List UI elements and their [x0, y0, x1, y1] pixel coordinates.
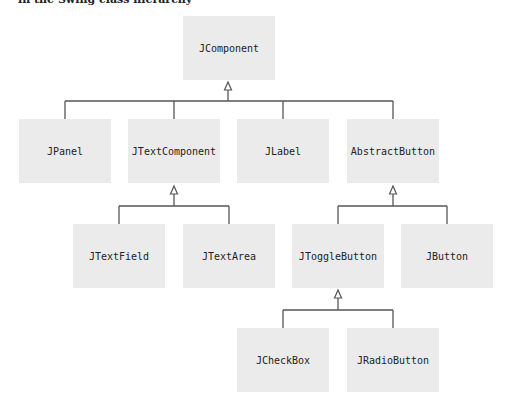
node-label: JLabel: [265, 146, 301, 157]
node-label: JPanel: [47, 146, 83, 157]
inheritance-arrow-icon: [171, 186, 178, 194]
node-label: JTextComponent: [132, 146, 216, 157]
node-abstractbutton: AbstractButton: [347, 119, 439, 183]
inheritance-arrow-icon: [335, 290, 342, 298]
inheritance-arrow-icon: [225, 82, 232, 90]
node-jtextfield: JTextField: [73, 224, 165, 288]
node-label: JTextArea: [202, 251, 256, 262]
node-label: JComponent: [199, 43, 259, 54]
node-jcomponent: JComponent: [183, 16, 275, 80]
node-jcheckbox: JCheckBox: [237, 328, 329, 392]
node-jbutton: JButton: [401, 224, 493, 288]
node-jtextcomponent: JTextComponent: [128, 119, 220, 183]
node-jpanel: JPanel: [19, 119, 111, 183]
node-label: AbstractButton: [351, 146, 435, 157]
node-jtogglebutton: JToggleButton: [292, 224, 384, 288]
inheritance-arrow-icon: [390, 186, 397, 194]
node-label: JCheckBox: [256, 355, 310, 366]
node-label: JRadioButton: [357, 355, 429, 366]
node-label: JToggleButton: [299, 251, 377, 262]
node-jradiobutton: JRadioButton: [347, 328, 439, 392]
node-label: JButton: [426, 251, 468, 262]
node-label: JTextField: [89, 251, 149, 262]
node-jlabel: JLabel: [237, 119, 329, 183]
node-jtextarea: JTextArea: [183, 224, 275, 288]
